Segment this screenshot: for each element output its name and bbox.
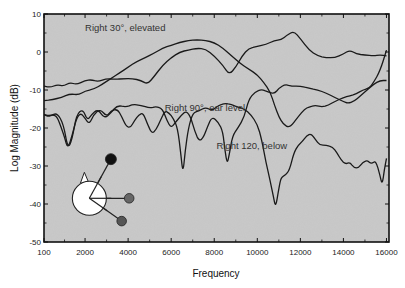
x-tick-label: 2000	[76, 248, 94, 257]
y-tick-label: -40	[29, 200, 41, 209]
y-tick-label: 0	[37, 48, 42, 57]
x-tick-label: 16000	[375, 248, 398, 257]
y-tick-label: -20	[29, 124, 41, 133]
x-tick-label: 100	[37, 248, 51, 257]
y-tick-label: -50	[29, 238, 41, 247]
series-annotation-0: Right 30°, elevated	[85, 22, 165, 33]
sound-source-icon-1	[124, 194, 134, 204]
x-tick-label: 12000	[289, 248, 312, 257]
x-tick-label: 8000	[205, 248, 223, 257]
y-axis-title: Log Magnitude (dB)	[9, 84, 20, 172]
sound-source-icon-0	[105, 154, 116, 165]
x-axis-title: Frequency	[192, 268, 239, 279]
plot-area: Right 30°, elevatedRight 90°, ear levelR…	[44, 14, 389, 242]
y-tick-label: 10	[32, 10, 41, 19]
series-annotation-2: Right 120, below	[216, 140, 287, 151]
chart: Right 30°, elevatedRight 90°, ear levelR…	[0, 0, 405, 288]
sound-source-icon-2	[117, 216, 127, 226]
x-tick-label: 4000	[119, 248, 137, 257]
series-annotation-1: Right 90°, ear level	[165, 102, 245, 113]
x-tick-label: 10000	[246, 248, 269, 257]
x-tick-label: 6000	[162, 248, 180, 257]
y-tick-label: -30	[29, 162, 41, 171]
y-tick-label: -10	[29, 86, 41, 95]
x-tick-label: 14000	[332, 248, 355, 257]
